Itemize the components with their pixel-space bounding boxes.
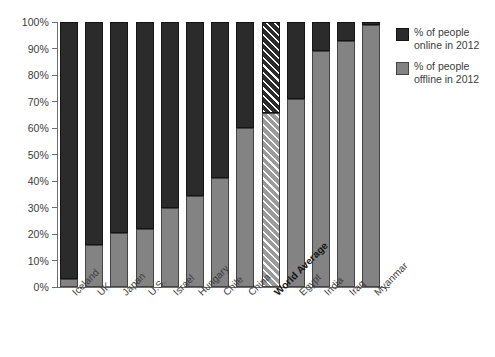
bar-segment-online: [287, 22, 305, 99]
bar-segment-online: [337, 22, 355, 41]
bar-segment-online: [236, 22, 254, 128]
legend-swatch-online: [396, 28, 409, 41]
chart-legend: % of people online in 2012% of people of…: [396, 26, 495, 94]
legend-swatch-offline: [396, 62, 409, 75]
stacked-bar-chart: 100%90%80%70%60%50%40%30%20%10%0% Icelan…: [0, 0, 495, 357]
legend-item: % of people offline in 2012: [396, 60, 495, 85]
y-axis: 100%90%80%70%60%50%40%30%20%10%0%: [0, 12, 57, 297]
bar-column: [161, 22, 179, 287]
bar-segment-online: [136, 22, 154, 229]
legend-label: % of people online in 2012: [414, 26, 479, 51]
bar-column: [362, 22, 380, 287]
bar-segment-offline: [362, 25, 380, 287]
bar-segment-online: [161, 22, 179, 208]
y-axis-tick: 60%: [0, 118, 57, 138]
bar-column: [186, 22, 204, 287]
bar-segment-online: [110, 22, 128, 233]
bar-segment-online: [60, 22, 78, 279]
bar-segment-online: [85, 22, 103, 245]
bar-segment-online: [186, 22, 204, 196]
bar-segment-offline: [110, 233, 128, 287]
y-axis-tick: 30%: [0, 198, 57, 218]
x-axis-labels: IcelandUKJapanU.S.IsraelHungaryChileChin…: [57, 288, 397, 357]
y-axis-tick: 100%: [0, 12, 57, 32]
bar-segment-offline: [161, 208, 179, 288]
bar-segment-offline: [337, 41, 355, 287]
bar-column: [110, 22, 128, 287]
y-axis-tick: 20%: [0, 224, 57, 244]
bar-column: [60, 22, 78, 287]
bar-column: [287, 22, 305, 287]
y-axis-tick: 80%: [0, 65, 57, 85]
bar-segment-offline: [262, 113, 280, 287]
bar-column: [85, 22, 103, 287]
bar-column: [337, 22, 355, 287]
legend-label: % of people offline in 2012: [414, 60, 479, 85]
bar-segment-online: [262, 22, 280, 113]
legend-item: % of people online in 2012: [396, 26, 495, 51]
bar-column: [211, 22, 229, 287]
bar-segment-online: [312, 22, 330, 51]
bar-column: [262, 22, 280, 287]
y-axis-tick: 40%: [0, 171, 57, 191]
y-axis-tick: 50%: [0, 145, 57, 165]
y-axis-tick: 90%: [0, 39, 57, 59]
y-axis-tick: 0%: [0, 277, 57, 297]
bar-column: [136, 22, 154, 287]
bar-segment-online: [211, 22, 229, 178]
y-axis-tick: 10%: [0, 251, 57, 271]
bar-column: [236, 22, 254, 287]
bars-layer: [57, 22, 389, 287]
bar-segment-offline: [236, 128, 254, 287]
y-axis-tick: 70%: [0, 92, 57, 112]
